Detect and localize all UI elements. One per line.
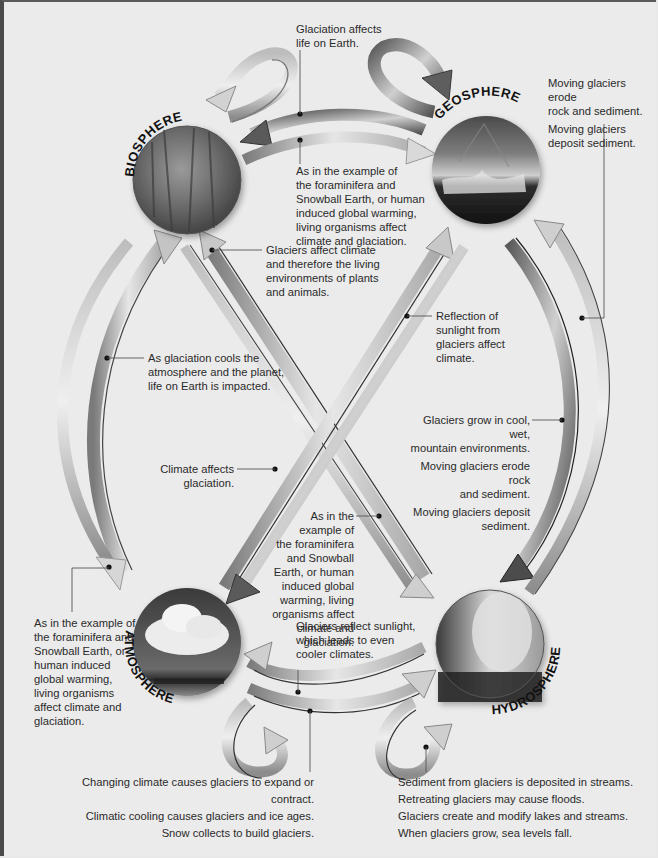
annotation-glaciers-reflect-sunlight: Glaciers reflect sunlight, which leads t… bbox=[296, 619, 415, 661]
annotation-organisms-affect-climate-top: As in the example of the foraminifera an… bbox=[296, 164, 425, 248]
annotation-organisms-affect-climate-left: As in the example of the foraminifera an… bbox=[34, 616, 135, 728]
annotation-glaciation-cools-atmosphere: As glaciation cools the atmosphere and t… bbox=[148, 351, 284, 393]
biosphere-self-arrow bbox=[206, 53, 292, 122]
annotation-geosphere-glacier-erosion: Moving glaciers eroderock and sediment. … bbox=[548, 76, 656, 154]
hydrosphere-self-arrow bbox=[381, 702, 452, 780]
annotation-glaciers-grow-mountain: Glaciers grow in cool, wet,mountain envi… bbox=[400, 413, 530, 537]
annotation-atmosphere-glacier-effects: Changing climate causes glaciers to expa… bbox=[64, 774, 314, 842]
geosphere-circle bbox=[432, 116, 540, 224]
annotation-glaciation-affects-life: Glaciation affects life on Earth. bbox=[296, 22, 382, 50]
geosphere-self-arrow bbox=[374, 45, 452, 112]
annotation-glaciers-affect-environments: Glaciers affect climate and therefore th… bbox=[266, 243, 380, 299]
hydrosphere-circle bbox=[436, 590, 544, 702]
atmosphere-self-arrow bbox=[227, 702, 288, 778]
annotation-hydrosphere-glacier-effects: Sediment from glaciers is deposited in s… bbox=[398, 774, 633, 842]
biosphere-to-geosphere-arrow bbox=[244, 137, 436, 164]
earth-systems-diagram: BIOSPHERE GEOSPHERE ATMOSPHERE HYDROSPHE… bbox=[0, 0, 656, 856]
annotation-climate-affects-glaciation: Climate affects glaciation. bbox=[144, 462, 234, 490]
annotation-reflection-of-sunlight: Reflection of sunlight from glaciers aff… bbox=[436, 309, 505, 365]
